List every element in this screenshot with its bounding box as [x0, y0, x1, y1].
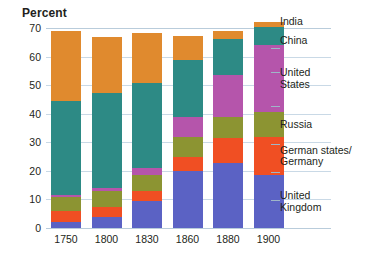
- y-tick-label-20: 20: [29, 165, 41, 177]
- legend-connector-tick-5: [271, 200, 280, 201]
- legend: IndiaChinaUnited StatesRussiaGerman stat…: [280, 0, 370, 272]
- bar-segment-china-1830: [132, 83, 162, 168]
- bar-segment-united-states-1860: [173, 117, 203, 138]
- bar-segment-german-states-germany-1830: [132, 191, 162, 201]
- bar-segment-china-1860: [173, 60, 203, 116]
- bar-segment-india-1800: [92, 37, 122, 93]
- bar-segment-united-kingdom-1860: [173, 171, 203, 228]
- bar-segment-russia-1800: [92, 191, 122, 207]
- bar-1750: [51, 31, 81, 228]
- y-tick-label-40: 40: [29, 108, 41, 120]
- legend-item-united-states: United States: [280, 67, 310, 90]
- bar-segment-united-states-1880: [213, 75, 243, 117]
- y-axis-title: Percent: [22, 6, 67, 20]
- bar-segment-russia-1750: [51, 197, 81, 211]
- bar-group: [46, 28, 289, 228]
- bar-segment-german-states-germany-1800: [92, 207, 122, 217]
- bar-segment-china-1800: [92, 93, 122, 188]
- bar-segment-china-1900: [254, 27, 284, 45]
- legend-connector-tick-3: [271, 144, 280, 145]
- x-tick-label-1860: 1860: [166, 233, 210, 245]
- bar-1900: [254, 22, 284, 228]
- legend-connector-tick-4: [271, 172, 280, 173]
- bar-segment-united-states-1830: [132, 168, 162, 175]
- y-tick-label-70: 70: [29, 22, 41, 34]
- bar-segment-russia-1900: [254, 112, 284, 137]
- bar-segment-china-1750: [51, 101, 81, 195]
- legend-connector-tick-2: [271, 106, 280, 107]
- x-tick-label-1800: 1800: [85, 233, 129, 245]
- legend-item-china: China: [280, 35, 307, 47]
- legend-item-german-states-germany: German states/ Germany: [280, 145, 352, 168]
- bar-segment-united-kingdom-1800: [92, 217, 122, 228]
- bar-1860: [173, 36, 203, 228]
- bar-segment-russia-1860: [173, 137, 203, 157]
- y-tick-label-30: 30: [29, 136, 41, 148]
- bar-segment-united-kingdom-1880: [213, 163, 243, 228]
- bar-segment-china-1880: [213, 39, 243, 75]
- y-tick-label-0: 0: [35, 222, 41, 234]
- y-tick-label-50: 50: [29, 79, 41, 91]
- bar-segment-united-states-1900: [254, 45, 284, 112]
- legend-connector-tick-0: [271, 48, 280, 49]
- bar-segment-russia-1830: [132, 175, 162, 191]
- legend-connector-tick-1: [271, 72, 280, 73]
- bar-1800: [92, 37, 122, 228]
- bar-segment-german-states-germany-1750: [51, 211, 81, 222]
- x-tick-label-1880: 1880: [206, 233, 250, 245]
- y-tick-label-60: 60: [29, 51, 41, 63]
- bar-segment-india-1830: [132, 33, 162, 83]
- bar-segment-india-1880: [213, 31, 243, 39]
- stacked-bar-chart: Percent 010203040506070 1750180018301860…: [0, 0, 370, 272]
- bar-segment-german-states-germany-1880: [213, 138, 243, 162]
- bar-segment-german-states-germany-1860: [173, 157, 203, 171]
- x-tick-label-1750: 1750: [44, 233, 88, 245]
- bar-segment-united-kingdom-1750: [51, 222, 81, 228]
- x-tick-label-1830: 1830: [125, 233, 169, 245]
- y-tick-label-10: 10: [29, 193, 41, 205]
- bar-segment-united-kingdom-1830: [132, 201, 162, 228]
- bar-segment-united-kingdom-1900: [254, 175, 284, 228]
- bar-segment-india-1750: [51, 31, 81, 101]
- bar-1880: [213, 31, 243, 228]
- bar-segment-india-1860: [173, 36, 203, 61]
- bar-1830: [132, 33, 162, 228]
- legend-item-russia: Russia: [280, 119, 312, 131]
- legend-item-united-kingdom: United Kingdom: [280, 190, 321, 213]
- legend-item-india: India: [280, 16, 303, 28]
- bar-segment-russia-1880: [213, 117, 243, 139]
